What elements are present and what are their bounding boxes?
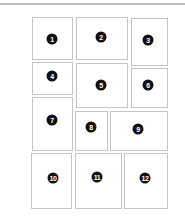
panel-number-badge: 9 [133,124,144,135]
panel-number-badge: 8 [86,122,97,133]
panel-number-badge: 10 [48,173,59,184]
panel-number-badge: 2 [96,32,107,43]
panel-number-badge: 1 [47,34,58,45]
panel-number-badge: 5 [96,80,107,91]
panel-number-badge: 3 [143,35,154,46]
panel-number-badge: 6 [143,80,154,91]
panel-number-badge: 12 [140,173,151,184]
panel-number-badge: 4 [47,71,58,82]
panel-number-badge: 7 [47,115,58,126]
panel-number-badge: 11 [92,172,103,183]
top-divider [0,3,185,5]
